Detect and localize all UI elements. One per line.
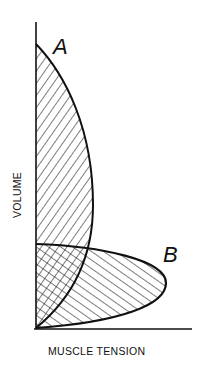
curve-label-b: B bbox=[163, 242, 178, 267]
volume-tension-diagram: A B MUSCLE TENSION VOLUME bbox=[0, 0, 203, 367]
region-b bbox=[36, 244, 166, 328]
x-axis-label: MUSCLE TENSION bbox=[48, 345, 145, 357]
y-axis-label: VOLUME bbox=[11, 172, 23, 218]
curve-label-a: A bbox=[51, 34, 68, 59]
